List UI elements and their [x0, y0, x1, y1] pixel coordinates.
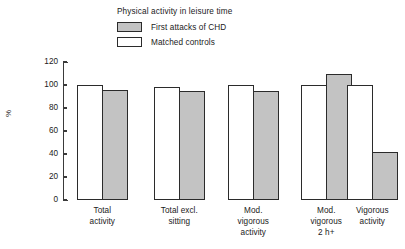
bar-matched-controls: [228, 85, 254, 200]
bar-group-container: Total activityTotal excl. sittingMod. vi…: [0, 0, 405, 249]
bar-first-attacks-of-chd: [372, 152, 398, 200]
x-axis-category-label: Vigorous activity: [327, 205, 405, 227]
bar-matched-controls: [77, 85, 103, 200]
bar-first-attacks-of-chd: [253, 91, 279, 200]
bar-first-attacks-of-chd: [102, 90, 128, 200]
bar-matched-controls: [347, 85, 373, 200]
bar-matched-controls: [301, 85, 327, 200]
bar-matched-controls: [154, 87, 180, 200]
bar-first-attacks-of-chd: [179, 91, 205, 200]
chart-figure: Physical activity in leisure time First …: [0, 0, 405, 249]
